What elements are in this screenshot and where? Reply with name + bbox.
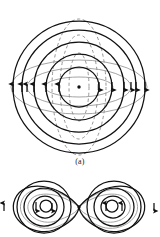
right-lobe-loops: [79, 181, 145, 233]
left-lobe-loops: [13, 181, 79, 233]
figure-caption-a: (a): [0, 157, 160, 166]
physics-field-figure: (a): [0, 0, 160, 237]
panel-b-group: [4, 181, 154, 233]
panel-a-center-dot: [77, 85, 80, 88]
field-diagram-svg: [0, 0, 160, 237]
panel-b-center-dot: [77, 205, 80, 208]
panel-a-group: [11, 19, 147, 155]
